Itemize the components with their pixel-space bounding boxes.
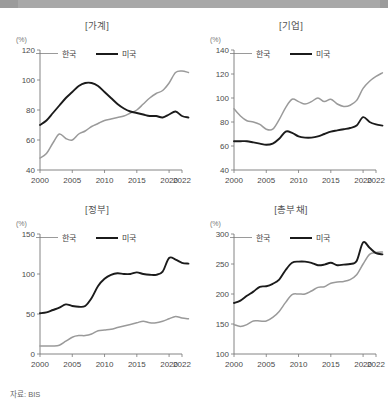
- svg-text:2010: 2010: [290, 360, 308, 369]
- svg-text:120: 120: [216, 70, 230, 79]
- chart-title: [기업]: [194, 18, 388, 32]
- chart-title: [총부채]: [194, 202, 388, 216]
- svg-text:2005: 2005: [63, 360, 81, 369]
- chart-title: [가계]: [0, 18, 194, 32]
- svg-text:2010: 2010: [96, 176, 114, 185]
- svg-text:2022: 2022: [173, 176, 191, 185]
- svg-text:100: 100: [22, 270, 36, 279]
- svg-text:100: 100: [216, 350, 230, 359]
- svg-text:2010: 2010: [96, 360, 114, 369]
- svg-text:100: 100: [22, 76, 36, 85]
- svg-text:140: 140: [216, 46, 230, 55]
- chart-panel-corporate: [기업] (%) 한국 미국 4060801001201402000200520…: [194, 14, 388, 200]
- svg-text:200: 200: [216, 290, 230, 299]
- series-line-usa: [234, 242, 382, 303]
- series-line-korea: [40, 71, 188, 158]
- svg-text:250: 250: [216, 260, 230, 269]
- svg-text:2000: 2000: [31, 176, 49, 185]
- plot-area: 100150200250300200020052010201520202022: [194, 228, 388, 378]
- chart-panel-households: [가계] (%) 한국 미국 4060801001202000200520102…: [0, 14, 194, 200]
- chart-grid: [가계] (%) 한국 미국 4060801001202000200520102…: [0, 8, 388, 380]
- chart-panel-total-debt: [총부채] (%) 한국 미국 100150200250300200020052…: [194, 198, 388, 384]
- svg-text:0: 0: [31, 350, 36, 359]
- y-axis-unit-label: (%): [210, 220, 221, 227]
- svg-text:60: 60: [26, 136, 35, 145]
- window-title-band: [0, 0, 388, 8]
- series-line-korea: [40, 316, 188, 346]
- y-axis-unit-label: (%): [16, 36, 27, 43]
- svg-text:80: 80: [26, 106, 35, 115]
- plot-area: 406080100120200020052010201520202022: [0, 44, 194, 194]
- svg-text:60: 60: [220, 142, 229, 151]
- svg-text:2015: 2015: [322, 360, 340, 369]
- svg-text:2022: 2022: [367, 176, 385, 185]
- series-line-usa: [40, 257, 188, 313]
- svg-text:40: 40: [26, 166, 35, 175]
- plot-area: 050100150200020052010201520202022: [0, 228, 194, 378]
- y-axis-unit-label: (%): [16, 220, 27, 227]
- svg-text:2000: 2000: [225, 176, 243, 185]
- series-line-usa: [234, 117, 382, 145]
- plot-area: 406080100120140200020052010201520202022: [194, 44, 388, 194]
- svg-text:150: 150: [22, 230, 36, 239]
- svg-text:150: 150: [216, 320, 230, 329]
- svg-text:2000: 2000: [225, 360, 243, 369]
- svg-text:2005: 2005: [63, 176, 81, 185]
- svg-text:2015: 2015: [128, 360, 146, 369]
- svg-text:40: 40: [220, 166, 229, 175]
- svg-text:120: 120: [22, 46, 36, 55]
- svg-text:100: 100: [216, 94, 230, 103]
- svg-text:2000: 2000: [31, 360, 49, 369]
- source-note: 자료: BIS: [10, 388, 40, 399]
- chart-panel-government: [정부] (%) 한국 미국 0501001502000200520102015…: [0, 198, 194, 384]
- svg-text:300: 300: [216, 230, 230, 239]
- y-axis-unit-label: (%): [210, 36, 221, 43]
- title-band-inner: [18, 0, 380, 8]
- svg-text:2022: 2022: [367, 360, 385, 369]
- svg-text:2022: 2022: [173, 360, 191, 369]
- svg-text:2015: 2015: [128, 176, 146, 185]
- svg-text:2005: 2005: [257, 176, 275, 185]
- svg-text:2015: 2015: [322, 176, 340, 185]
- chart-title: [정부]: [0, 202, 194, 216]
- svg-text:2010: 2010: [290, 176, 308, 185]
- svg-text:2005: 2005: [257, 360, 275, 369]
- svg-text:50: 50: [26, 310, 35, 319]
- svg-text:80: 80: [220, 118, 229, 127]
